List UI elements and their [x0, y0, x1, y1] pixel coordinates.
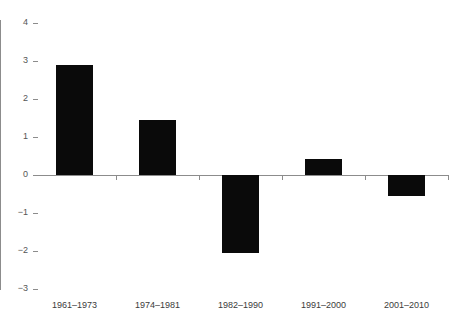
bar-2 [222, 175, 259, 253]
y-tick-label: −1 [4, 208, 28, 217]
bar-3 [305, 159, 342, 175]
y-tick-label: 3 [4, 56, 28, 65]
x-tick-label: 1961–1973 [33, 300, 116, 310]
y-tick-3 [33, 137, 38, 138]
y-tick-2 [33, 99, 38, 100]
y-tick-label: 4 [4, 18, 28, 27]
y-tick-1 [33, 61, 38, 62]
x-tick-1 [116, 175, 117, 180]
x-tick-label: 1974–1981 [116, 300, 199, 310]
x-tick-2 [199, 175, 200, 180]
x-tick-5 [448, 175, 449, 180]
x-tick-label: 1991–2000 [282, 300, 365, 310]
x-tick-3 [282, 175, 283, 180]
y-tick-0 [33, 23, 38, 24]
bar-4 [388, 175, 425, 196]
y-tick-label: −3 [4, 284, 28, 293]
y-tick-label: −2 [4, 246, 28, 255]
bar-0 [56, 65, 93, 175]
y-tick-6 [33, 251, 38, 252]
y-tick-5 [33, 213, 38, 214]
bar-chart: 43210−1−2−3 1961–19731974–19811982–19901… [0, 0, 460, 327]
y-tick-label: 2 [4, 94, 28, 103]
y-axis-line [0, 20, 1, 290]
x-tick-4 [365, 175, 366, 180]
x-tick-label: 1982–1990 [199, 300, 282, 310]
y-tick-label: 1 [4, 132, 28, 141]
x-tick-label: 2001–2010 [365, 300, 448, 310]
bar-1 [139, 120, 176, 175]
y-tick-7 [33, 289, 38, 290]
y-tick-4 [33, 175, 38, 176]
y-tick-label: 0 [4, 170, 28, 179]
